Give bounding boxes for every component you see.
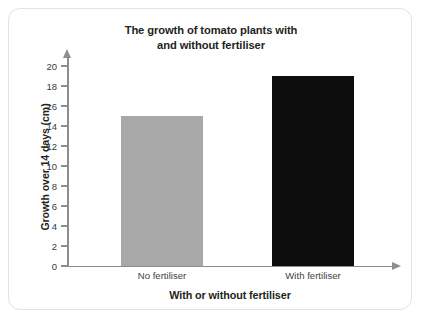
bar-with-fertiliser bbox=[272, 76, 354, 266]
plot-area: Growth over 14 days (cm) 024681012141618… bbox=[9, 9, 413, 311]
chart-card: The growth of tomato plants with and wit… bbox=[8, 8, 412, 310]
x-axis-title: With or without fertiliser bbox=[67, 289, 393, 301]
category-label: No fertiliser bbox=[102, 270, 222, 281]
category-label: With fertiliser bbox=[253, 270, 373, 281]
bar-no-fertiliser bbox=[121, 116, 203, 266]
bars-layer bbox=[9, 9, 413, 266]
